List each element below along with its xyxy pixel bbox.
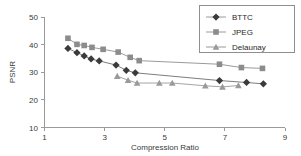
data-point-diamond bbox=[81, 52, 88, 59]
data-point-triangle bbox=[114, 73, 121, 79]
data-point-triangle bbox=[235, 82, 242, 88]
data-point-diamond bbox=[243, 79, 250, 86]
data-point-square bbox=[81, 43, 87, 49]
data-point-triangle bbox=[125, 77, 132, 83]
data-point-square bbox=[89, 45, 95, 51]
data-point-square bbox=[239, 65, 245, 71]
data-point-diamond bbox=[73, 49, 80, 56]
x-tick-label: 1 bbox=[42, 133, 47, 142]
data-point-square bbox=[127, 55, 133, 61]
data-point-diamond bbox=[260, 80, 267, 87]
y-tick-label: 30 bbox=[29, 68, 38, 77]
data-point-diamond bbox=[132, 69, 139, 76]
data-point-diamond bbox=[123, 67, 130, 74]
data-point-square bbox=[74, 42, 80, 48]
y-tick-label: 20 bbox=[29, 96, 38, 105]
x-tick-label: 9 bbox=[283, 133, 288, 142]
x-tick-label: 7 bbox=[223, 133, 228, 142]
psnr-vs-compression-ratio-chart: 1020304050 13579 Compression Ratio PSNR … bbox=[0, 0, 301, 156]
data-point-square bbox=[115, 49, 121, 55]
x-axis-title: Compression Ratio bbox=[131, 143, 200, 152]
data-point-diamond bbox=[87, 55, 94, 62]
x-tick-label: 5 bbox=[163, 133, 168, 142]
chart-legend: BTTCJPEGDelaunay bbox=[200, 6, 295, 53]
data-point-diamond bbox=[96, 57, 103, 64]
legend-marker-square bbox=[213, 29, 219, 35]
y-axis-title: PSNR bbox=[8, 61, 17, 83]
legend-label-jpeg: JPEG bbox=[232, 28, 253, 37]
x-axis-ticks: 13579 bbox=[42, 128, 288, 143]
data-point-square bbox=[65, 35, 71, 41]
data-point-square bbox=[100, 47, 106, 53]
legend-label-bttc: BTTC bbox=[232, 13, 253, 22]
data-point-square bbox=[260, 66, 266, 72]
series-delaunay bbox=[114, 73, 242, 90]
y-tick-label: 10 bbox=[29, 124, 38, 133]
chart-container: 1020304050 13579 Compression Ratio PSNR … bbox=[0, 0, 301, 156]
data-point-diamond bbox=[64, 45, 71, 52]
y-axis-ticks: 1020304050 bbox=[29, 13, 44, 133]
y-tick-label: 50 bbox=[29, 13, 38, 22]
data-point-square bbox=[136, 58, 142, 64]
legend-label-delaunay: Delaunay bbox=[232, 43, 266, 52]
data-point-diamond bbox=[112, 61, 119, 68]
data-point-square bbox=[217, 61, 223, 67]
y-tick-label: 40 bbox=[29, 41, 38, 50]
x-tick-label: 3 bbox=[102, 133, 107, 142]
data-point-diamond bbox=[216, 77, 223, 84]
